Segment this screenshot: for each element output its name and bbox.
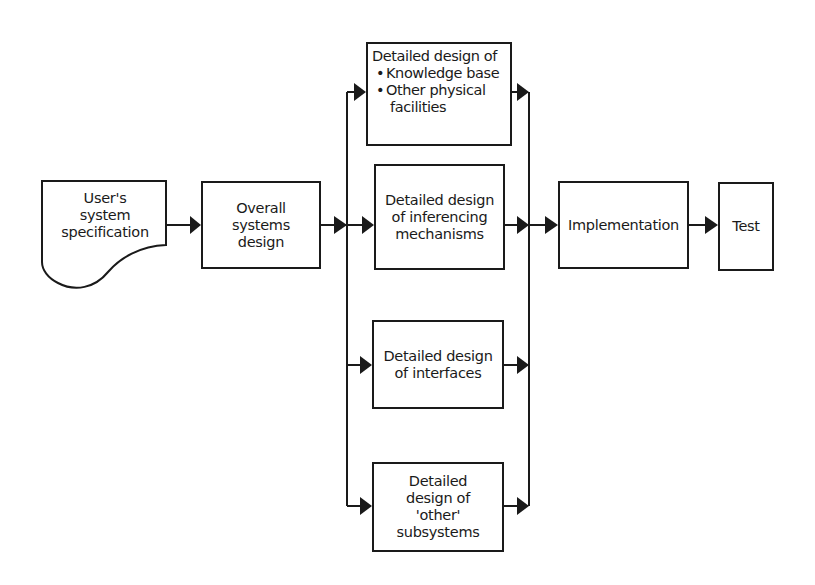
node-line: of inferencing (385, 209, 494, 226)
arrowhead (354, 83, 366, 101)
arrowhead (545, 216, 558, 234)
node-knowledge-base-design: Detailed design of Knowledge base Other … (366, 42, 512, 146)
bullet-item: Other physical (372, 82, 510, 99)
node-test: Test (718, 182, 774, 271)
node-line: Detailed (397, 473, 480, 490)
node-user-system-specification: User's system specification (44, 190, 166, 241)
node-other-subsystems-design: Detailed design of 'other' subsystems (372, 462, 504, 552)
node-line: design (232, 234, 290, 251)
arrowhead (360, 497, 372, 515)
bullet-item: Knowledge base (372, 65, 510, 82)
arrowhead (362, 216, 374, 234)
node-line: design of (397, 490, 480, 507)
arrowhead (517, 356, 529, 374)
bullet-continuation: facilities (372, 99, 510, 116)
node-implementation: Implementation (558, 181, 689, 269)
node-overall-systems-design: Overall systems design (201, 181, 321, 269)
node-line: of interfaces (383, 365, 492, 382)
node-line: specification (44, 224, 166, 241)
node-inferencing-mechanisms-design: Detailed design of inferencing mechanism… (374, 164, 505, 270)
node-line: system (44, 207, 166, 224)
arrowhead (517, 497, 529, 515)
node-line: systems (232, 217, 290, 234)
node-line: User's (44, 190, 166, 207)
arrowhead (517, 216, 529, 234)
arrowhead (517, 83, 529, 101)
node-line: Test (732, 218, 759, 235)
node-heading: Detailed design of (372, 48, 510, 65)
node-line: 'other' (397, 507, 480, 524)
arrowhead (705, 216, 718, 234)
arrowhead (334, 216, 347, 234)
node-line: subsystems (397, 524, 480, 541)
node-line: Overall (232, 200, 290, 217)
node-line: mechanisms (385, 226, 494, 243)
arrowhead (190, 216, 201, 234)
arrowhead (360, 356, 372, 374)
node-interfaces-design: Detailed design of interfaces (372, 320, 504, 409)
node-line: Detailed design (383, 348, 492, 365)
node-line: Detailed design (385, 192, 494, 209)
node-line: Implementation (568, 217, 679, 234)
